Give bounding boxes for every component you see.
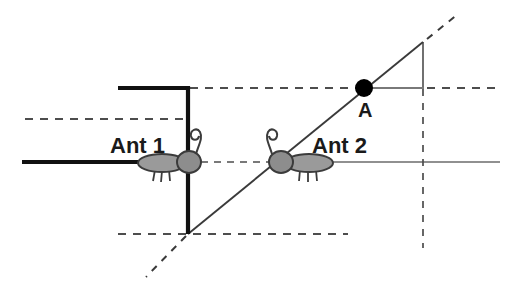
point-a-marker (355, 79, 373, 97)
ant-1-head (177, 151, 201, 173)
ant-1-label: Ant 1 (110, 133, 165, 158)
ant-2-label: Ant 2 (312, 133, 367, 158)
diagram-canvas: Ant 1 Ant 2 A (0, 0, 515, 290)
figure-background (0, 0, 515, 290)
geometry-figure: Ant 1 Ant 2 A (0, 0, 515, 290)
point-a-label: A (358, 99, 372, 121)
ant-2-head (269, 151, 293, 173)
